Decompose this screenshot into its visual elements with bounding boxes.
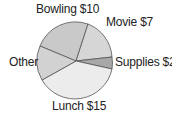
label-supplies: Supplies $2 — [115, 55, 172, 69]
label-bowling: Bowling $10 — [36, 2, 99, 16]
label-other: Other — [9, 55, 38, 69]
label-movie: Movie $7 — [106, 15, 153, 29]
label-lunch: Lunch $15 — [52, 99, 106, 113]
